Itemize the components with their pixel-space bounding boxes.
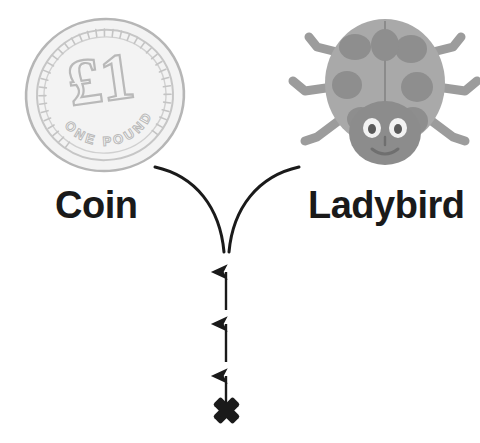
branch-to-ladybird bbox=[229, 167, 299, 252]
y-branch-connector bbox=[155, 167, 299, 252]
diagram-canvas: £1 ONE POUND bbox=[0, 0, 480, 443]
label-coin: Coin bbox=[55, 186, 137, 224]
label-ladybird: Ladybird bbox=[308, 186, 464, 224]
branch-to-coin bbox=[155, 167, 224, 252]
